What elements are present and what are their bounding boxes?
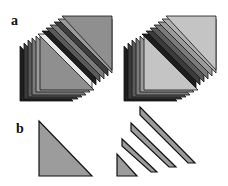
- panel-a-right-stack: [124, 16, 216, 101]
- panel-b-triangle: [39, 121, 92, 176]
- panel-b-strips: [117, 107, 195, 176]
- figure-canvas: [0, 0, 228, 186]
- panel-a-left-stack: [20, 16, 112, 101]
